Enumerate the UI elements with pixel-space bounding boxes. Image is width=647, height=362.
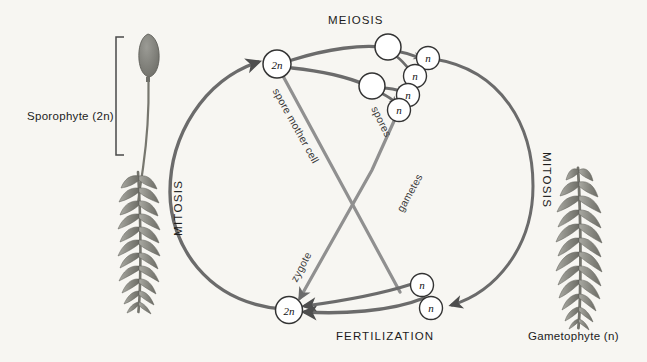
life-cycle-diagram: 2n n n n n <box>0 0 647 362</box>
label-meiosis: MEIOSIS <box>328 14 384 26</box>
cell-label-spore-2: n <box>412 70 418 82</box>
arc-mitosis-left <box>170 62 283 309</box>
cell-label-spore-1: n <box>425 52 431 64</box>
cell-sporophyte-2n: 2n <box>263 50 291 78</box>
cell-gamete-2: n <box>420 297 443 320</box>
cell-label-spore-3: n <box>405 89 411 101</box>
sporophyte-bracket <box>116 37 124 155</box>
cell-spore-4: n <box>388 99 411 122</box>
arc-mitosis-right <box>434 59 533 305</box>
cell-zygote-2n: 2n <box>276 297 303 324</box>
cycle-arcs <box>170 59 533 309</box>
cell-label-zygote-2n: 2n <box>284 305 296 317</box>
label-mitosis-left: MITOSIS <box>172 180 184 236</box>
label-gametophyte: Gametophyte (n) <box>528 330 619 342</box>
cell-label-gamete-1: n <box>419 279 425 291</box>
cell-label-sporophyte-2n: 2n <box>272 59 284 71</box>
label-mitosis-right: MITOSIS <box>541 152 553 208</box>
cell-meiosis-daughter-2 <box>359 73 385 99</box>
label-sporophyte: Sporophyte (2n) <box>27 110 114 122</box>
cell-label-gamete-2: n <box>428 302 434 314</box>
label-fertilization: FERTILIZATION <box>336 330 434 342</box>
cell-meiosis-daughter-1 <box>375 34 401 60</box>
gametophyte-illustration <box>556 168 602 330</box>
sporophyte-illustration <box>118 34 160 314</box>
cell-label-spore-4: n <box>396 104 402 116</box>
fertilization-arrows <box>305 284 424 313</box>
cell-gamete-1: n <box>411 274 434 297</box>
